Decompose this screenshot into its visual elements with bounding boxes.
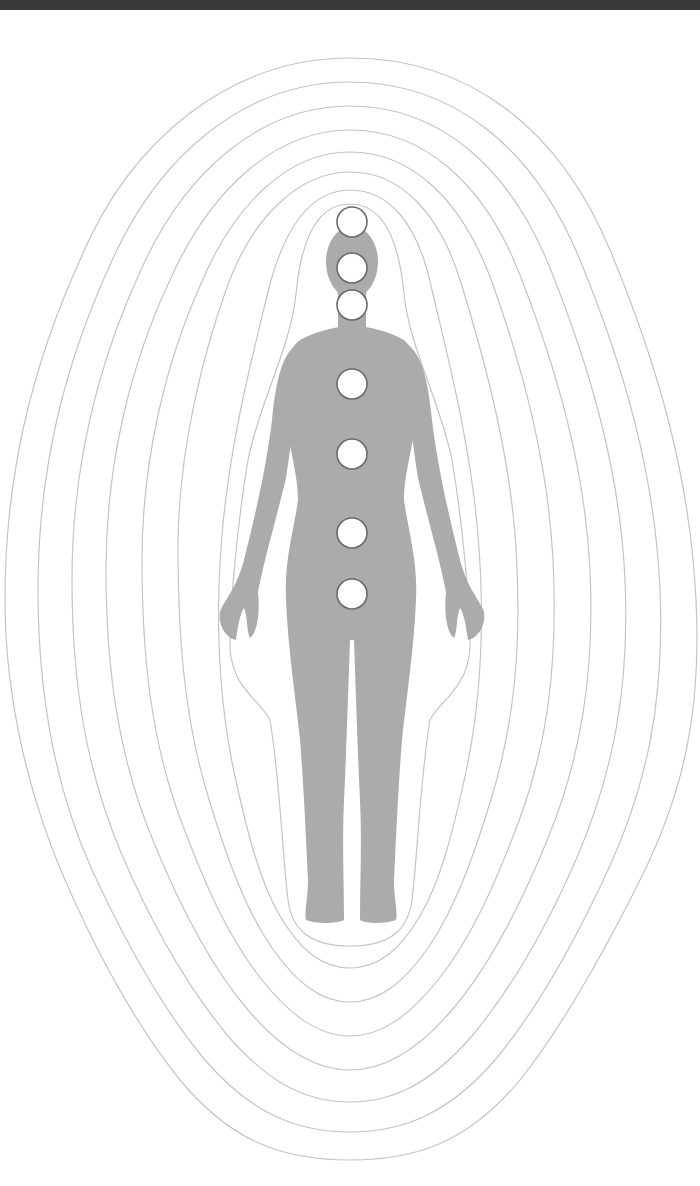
chakra-heart: [337, 369, 367, 399]
aura-chakra-illustration: [0, 10, 700, 1186]
chakra-throat: [337, 290, 367, 320]
chakra-root: [337, 579, 367, 609]
chakra-sacral: [337, 518, 367, 548]
top-bar: [0, 0, 700, 10]
body-silhouette: [220, 226, 485, 923]
chakra-crown: [337, 207, 367, 237]
torso-and-legs: [284, 326, 418, 923]
chakra-solar-plexus: [337, 439, 367, 469]
chakra-third-eye: [337, 253, 367, 283]
aura-diagram: [0, 10, 700, 1186]
